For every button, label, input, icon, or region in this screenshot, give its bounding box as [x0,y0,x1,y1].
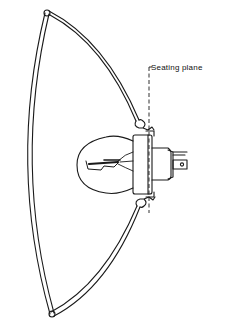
lead-wire-mid [120,161,133,162]
filament [89,162,118,164]
headlamp-diagram [0,0,228,328]
terminal-upper [173,152,187,155]
lower-mount-clip [136,197,155,207]
lens-outer-arc [28,13,50,314]
terminal-hole [180,163,183,166]
upper-mount-clip [135,120,154,130]
seating-plane-label: Seating plane [151,63,203,72]
upper-reflector-outer [49,11,139,120]
upper-reflector-inner [50,15,136,121]
lower-reflector-inner [51,206,137,312]
bulb-glass [77,136,133,193]
lead-wire-lower [118,164,133,171]
lower-reflector-outer [54,207,140,316]
bulb-cap [152,148,171,180]
